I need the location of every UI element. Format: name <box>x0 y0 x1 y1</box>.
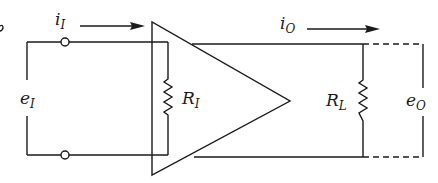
output-voltage-label: eO <box>406 90 426 113</box>
input-terminal-top <box>61 38 69 46</box>
input-voltage-label: eI <box>20 88 35 111</box>
amplifier-circuit-diagram: iI iO eI RI RL eO <box>0 0 438 183</box>
input-resistance-label: RI <box>181 88 200 111</box>
output-arrowhead-icon <box>365 25 380 33</box>
input-arrowhead-icon <box>130 22 145 30</box>
input-current-label: iI <box>55 9 65 32</box>
load-resistance-label: RL <box>325 90 347 113</box>
amplifier-triangle-icon <box>152 22 290 175</box>
load-resistor-icon <box>359 44 367 157</box>
input-terminal-bottom <box>61 151 69 159</box>
cropped-glyph <box>0 25 3 31</box>
output-current-label: iO <box>280 13 295 36</box>
input-resistor-icon <box>164 42 172 155</box>
